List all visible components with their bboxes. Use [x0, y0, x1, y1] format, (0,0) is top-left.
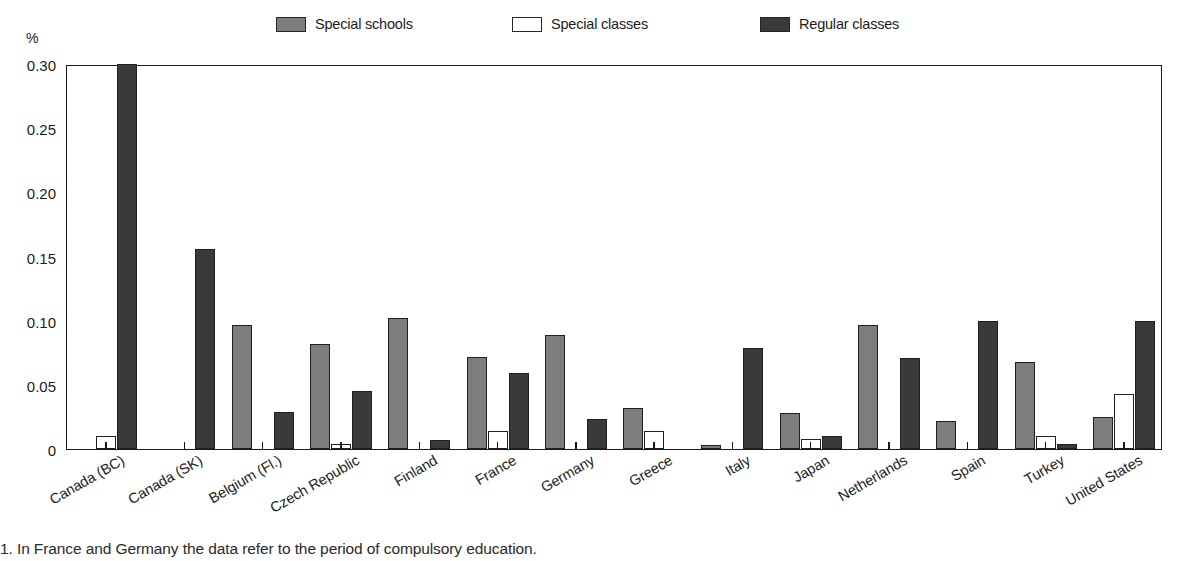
legend-label-regular-classes: Regular classes	[799, 16, 899, 32]
bar-regular-classes	[195, 249, 215, 449]
bar-regular-classes	[117, 64, 137, 449]
x-axis-tick-mark	[184, 442, 186, 449]
bar-regular-classes	[352, 391, 372, 449]
bar-group	[780, 66, 842, 449]
x-axis-tick-mark	[1045, 442, 1047, 449]
bar-group	[858, 66, 920, 449]
legend-swatch-special-classes	[512, 17, 542, 32]
legend-item-special-classes: Special classes	[512, 14, 648, 34]
bar-series-layer	[67, 66, 1161, 449]
y-axis-unit-label: %	[26, 30, 38, 46]
x-axis-label: France	[472, 452, 519, 488]
bar-regular-classes	[822, 436, 842, 449]
legend-label-special-classes: Special classes	[551, 16, 648, 32]
bar-special-schools	[780, 413, 800, 449]
y-axis-tick-label: 0.20	[0, 185, 56, 202]
bar-special-schools	[858, 325, 878, 449]
bar-group	[467, 66, 529, 449]
y-axis-tick-label: 0.05	[0, 377, 56, 394]
x-axis-tick-mark	[967, 442, 969, 449]
bar-group	[310, 66, 372, 449]
x-axis-tick-mark	[105, 442, 107, 449]
bar-special-schools	[388, 318, 408, 449]
bar-special-schools	[936, 421, 956, 449]
bar-regular-classes	[509, 373, 529, 449]
bar-group	[701, 66, 763, 449]
bar-group	[545, 66, 607, 449]
x-axis-tick-mark	[732, 442, 734, 449]
bar-special-schools	[1093, 417, 1113, 449]
x-axis-label: Italy	[723, 452, 754, 479]
legend-item-regular-classes: Regular classes	[760, 14, 899, 34]
x-axis-tick-mark	[653, 442, 655, 449]
x-axis-labels: Canada (BC)Canada (SK)Belgium (Fl.)Czech…	[0, 452, 1177, 537]
bar-special-schools	[310, 344, 330, 449]
bar-regular-classes	[900, 358, 920, 449]
legend-swatch-regular-classes	[760, 17, 790, 32]
chart-footnote: 1. In France and Germany the data refer …	[0, 540, 537, 558]
x-axis-label: Canada (SK)	[126, 452, 206, 507]
x-axis-label: Netherlands	[835, 452, 910, 504]
bar-group	[623, 66, 685, 449]
y-axis-tick-label: 0.30	[0, 57, 56, 74]
bar-special-schools	[1015, 362, 1035, 449]
bar-special-schools	[467, 357, 487, 449]
bar-group	[1093, 66, 1155, 449]
bar-group	[75, 66, 137, 449]
bar-special-classes	[1114, 394, 1134, 449]
x-axis-label: Germany	[538, 452, 597, 495]
bar-group	[153, 66, 215, 449]
x-axis-label: Greece	[626, 452, 675, 489]
bar-regular-classes	[587, 419, 607, 449]
bar-special-schools	[545, 335, 565, 449]
y-axis-tick-label: 0.25	[0, 121, 56, 138]
legend-label-special-schools: Special schools	[315, 16, 413, 32]
bar-regular-classes	[1135, 321, 1155, 449]
bar-regular-classes	[743, 348, 763, 449]
x-axis-label: Turkey	[1021, 452, 1066, 487]
x-axis-tick-mark	[262, 442, 264, 449]
bar-group	[232, 66, 294, 449]
x-axis-label: United States	[1063, 452, 1145, 509]
plot-inner	[67, 66, 1161, 449]
x-axis-tick-mark	[497, 442, 499, 449]
y-axis-tick-label: 0.10	[0, 313, 56, 330]
x-axis-tick-mark	[888, 442, 890, 449]
x-axis-tick-mark	[340, 442, 342, 449]
bar-regular-classes	[430, 440, 450, 449]
x-axis-tick-mark	[419, 442, 421, 449]
bar-group	[936, 66, 998, 449]
bar-group	[1015, 66, 1077, 449]
x-axis-label: Finland	[392, 452, 441, 489]
bar-group	[388, 66, 450, 449]
legend-item-special-schools: Special schools	[276, 14, 413, 34]
bar-special-schools	[623, 408, 643, 449]
bar-regular-classes	[274, 412, 294, 449]
x-axis-tick-mark	[575, 442, 577, 449]
chart-legend: Special schools Special classes Regular …	[0, 14, 1177, 40]
bar-regular-classes	[978, 321, 998, 449]
x-axis-tick-mark	[810, 442, 812, 449]
x-axis-label: Canada (BC)	[47, 452, 127, 508]
bar-special-schools	[701, 445, 721, 449]
x-axis-label: Japan	[790, 452, 832, 485]
y-axis-tick-label: 0.15	[0, 249, 56, 266]
chart-figure: Special schools Special classes Regular …	[0, 0, 1177, 561]
x-axis-label: Spain	[949, 452, 989, 484]
bar-special-schools	[232, 325, 252, 449]
x-axis-tick-mark	[1123, 442, 1125, 449]
bar-regular-classes	[1057, 444, 1077, 449]
legend-swatch-special-schools	[276, 17, 306, 32]
plot-area	[66, 65, 1162, 450]
